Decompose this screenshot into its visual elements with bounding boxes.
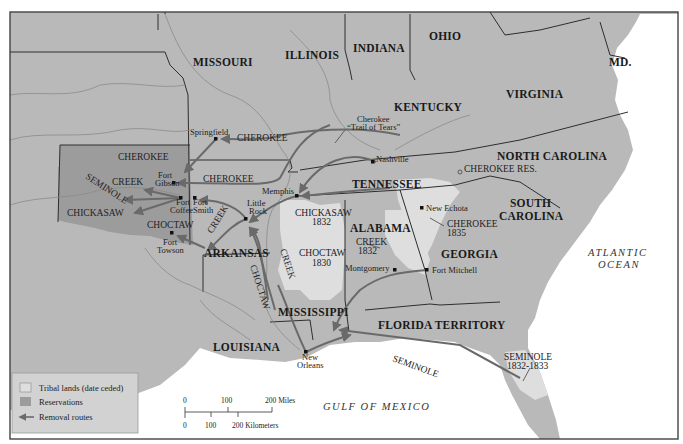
scale-km-100: 100 — [205, 421, 217, 430]
city-label-fort-gibson-line2: Gibson — [155, 178, 180, 188]
scale-miles-100: 100 — [221, 396, 233, 405]
city-label-fort-coffee-line2: Coffee — [170, 205, 193, 215]
state-label-indiana: INDIANA — [353, 42, 405, 54]
city-label-little-rock-line2: Rock — [249, 206, 268, 216]
state-label-louisiana: LOUISIANA — [213, 341, 280, 353]
city-label-fort-smith-line2: Smith — [193, 205, 214, 215]
city-label-fort-mitchell: Fort Mitchell — [432, 265, 478, 275]
map-legend: Tribal lands (date ceded) Reservations R… — [12, 373, 138, 433]
indian-removal-map: MISSOURI ILLINOIS INDIANA OHIO MD. KENTU… — [0, 0, 683, 444]
state-label-alabama: ALABAMA — [350, 222, 411, 234]
city-marker-fort-mitchell — [425, 268, 429, 272]
legend-swatch-reservations — [20, 397, 31, 406]
tribe-label-chickasaw-territory: CHICKASAW — [67, 208, 124, 218]
tribe-date-seminole-ceded: 1832-1833 — [507, 361, 548, 371]
state-label-missouri: MISSOURI — [193, 56, 253, 68]
route-label-cherokee-springfield: CHEROKEE — [237, 133, 288, 143]
legend-swatch-tribal-lands — [20, 383, 31, 392]
city-label-fort-towson-line2: Towson — [157, 245, 185, 255]
tribe-label-creek-territory: CREEK — [112, 177, 143, 187]
city-marker-montgomery — [393, 268, 397, 272]
state-label-kentucky: KENTUCKY — [394, 101, 463, 113]
city-marker-nashville — [371, 160, 375, 164]
state-label-mississippi: MISSISSIPPI — [278, 306, 349, 318]
route-label-cherokee-fort-gibson: CHEROKEE — [203, 174, 254, 184]
state-label-illinois: ILLINOIS — [285, 49, 339, 61]
state-label-georgia: GEORGIA — [441, 248, 498, 260]
state-label-ohio: OHIO — [429, 30, 461, 42]
state-label-south-carolina-line1: SOUTH — [510, 197, 551, 209]
legend-label-reservations: Reservations — [39, 397, 83, 407]
state-label-virginia: VIRGINIA — [506, 88, 564, 100]
tribe-date-cherokee-ceded: 1835 — [447, 228, 466, 238]
legend-label-removal-routes: Removal routes — [39, 412, 93, 422]
tribe-label-cherokee-territory: CHEROKEE — [118, 152, 169, 162]
legend-label-tribal-lands: Tribal lands (date ceded) — [39, 383, 124, 393]
water-label-gulf-of-mexico: GULF OF MEXICO — [323, 401, 430, 412]
city-marker-little-rock — [244, 217, 248, 221]
city-label-springfield: Springfield — [190, 127, 229, 137]
tribe-label-cherokee-reservation: CHEROKEE RES. — [464, 164, 537, 174]
city-marker-memphis — [295, 194, 299, 198]
scale-km-0: 0 — [183, 421, 187, 430]
tribe-label-choctaw-territory: CHOCTAW — [147, 220, 194, 230]
state-label-south-carolina-line2: CAROLINA — [499, 210, 564, 222]
city-label-memphis: Memphis — [262, 186, 294, 196]
state-label-md: MD. — [609, 56, 632, 68]
city-marker-fort-towson — [170, 231, 174, 235]
city-marker-new-echota — [420, 206, 424, 210]
scale-km-200: 200 Kilometers — [232, 421, 279, 430]
state-label-north-carolina: NORTH CAROLINA — [497, 150, 608, 162]
water-label-atlantic-line2: OCEAN — [598, 259, 640, 270]
route-label-trail-of-tears-line2: “Trail of Tears” — [347, 122, 400, 132]
state-label-arkansas: ARKANSAS — [204, 247, 269, 259]
water-label-atlantic-line1: ATLANTIC — [587, 247, 647, 258]
tribe-date-creek-ceded: 1832 — [358, 246, 377, 256]
city-label-nashville: Nashville — [376, 154, 409, 164]
state-label-florida-territory: FLORIDA TERRITORY — [378, 319, 506, 331]
tribe-label-choctaw-ceded: CHOCTAW — [299, 248, 346, 258]
city-label-new-orleans-line2: Orleans — [297, 360, 323, 370]
scale-miles-200: 200 Miles — [265, 396, 295, 405]
tribe-date-chickasaw-ceded: 1832 — [312, 217, 331, 227]
city-label-new-echota: New Echota — [426, 203, 468, 213]
scale-miles-0: 0 — [183, 396, 187, 405]
state-label-tennessee: TENNESSEE — [352, 178, 422, 190]
tribe-date-choctaw-ceded: 1830 — [312, 258, 331, 268]
city-label-montgomery: Montgomery — [345, 263, 390, 273]
city-marker-springfield — [214, 137, 218, 141]
